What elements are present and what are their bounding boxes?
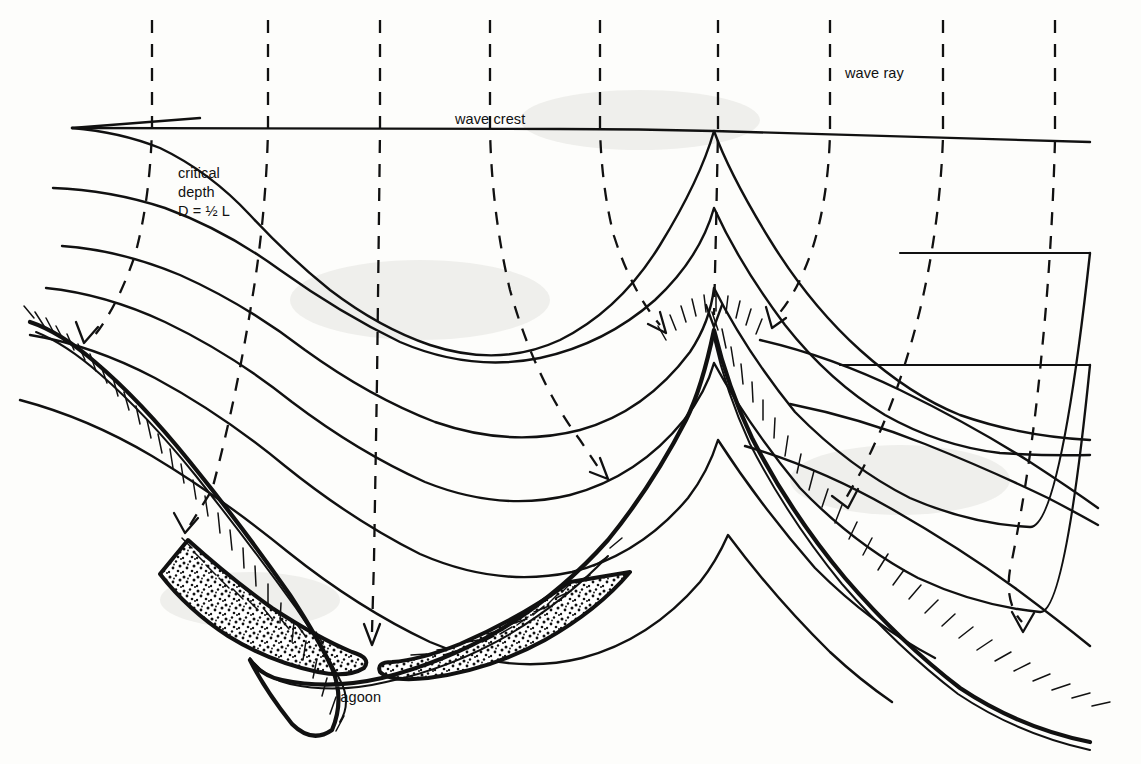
diagram-canvas	[0, 0, 1141, 764]
wave-crest-3	[53, 188, 1090, 455]
label-wave-ray: wave ray	[845, 64, 904, 83]
wave-crest-11	[72, 118, 200, 128]
wave-ray-8	[845, 20, 943, 500]
label-critical-depth-line1: critical	[178, 164, 230, 183]
shoreline-inner-right	[714, 338, 1090, 750]
wave-ray-6	[714, 20, 718, 315]
wave-refraction-figure: wave crest wave ray critical depth D = ½…	[0, 0, 1141, 764]
arrowhead-ray-4	[590, 458, 608, 479]
coastline-group	[30, 322, 1090, 750]
label-wave-crest: wave crest	[455, 110, 525, 129]
arrowhead-ray-9	[1012, 612, 1034, 632]
sand-spit-group	[160, 540, 630, 679]
label-critical-depth-line2: depth	[178, 183, 230, 202]
wave-ray-5	[600, 20, 660, 325]
label-lagoon: lagoon	[337, 688, 381, 707]
wave-ray-1	[95, 20, 152, 335]
wave-ray-7	[775, 20, 830, 318]
paper-texture	[160, 90, 1010, 628]
wave-ray-2	[190, 20, 268, 525]
label-critical-depth: critical depth D = ½ L	[178, 164, 230, 221]
arrowhead-ray-1	[76, 322, 98, 343]
wave-ray-9	[1009, 20, 1055, 622]
wave-ray-4	[490, 20, 600, 470]
label-critical-depth-line3: D = ½ L	[178, 202, 230, 221]
